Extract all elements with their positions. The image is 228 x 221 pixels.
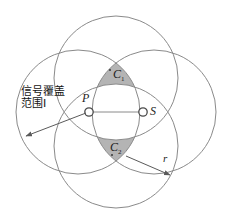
region-c2-label-sub: 2 bbox=[118, 148, 122, 156]
region-c1-label-base: C bbox=[113, 67, 121, 81]
region-c2-label-base: C bbox=[110, 140, 118, 154]
node-p-marker bbox=[85, 108, 93, 116]
node-s-marker bbox=[139, 108, 147, 116]
region-c1-label-sub: 1 bbox=[121, 75, 125, 83]
region-c1-label: C1 bbox=[113, 68, 125, 84]
figure-container: 信号覆盖 范围I P S C1 C2 r bbox=[0, 0, 228, 221]
center-dot-c1 bbox=[109, 69, 111, 71]
point-s-label: S bbox=[150, 105, 156, 118]
coverage-range-label-line2: 范围I bbox=[21, 98, 65, 110]
point-p-label: P bbox=[82, 92, 89, 105]
coverage-range-label: 信号覆盖 范围I bbox=[21, 86, 65, 111]
radius-label: r bbox=[163, 152, 167, 164]
region-c2-label: C2 bbox=[110, 141, 122, 157]
